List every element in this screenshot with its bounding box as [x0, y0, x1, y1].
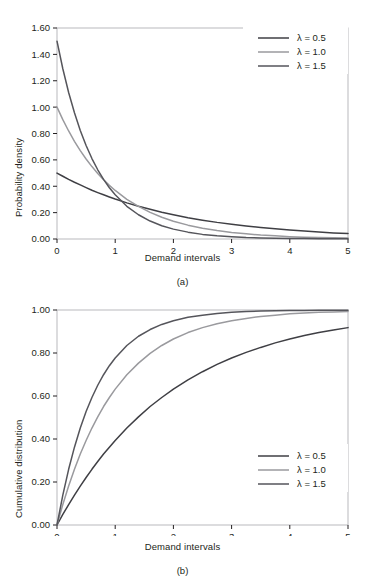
legend-label-2: λ = 1.5: [297, 60, 326, 71]
y-tick-label: 0.00: [32, 233, 51, 244]
y-tick-label: 1.20: [32, 75, 51, 86]
chart-panel-a: 0.000.200.400.600.801.001.201.401.600123…: [0, 14, 365, 299]
y-axis-title-b: Cumulative distribution: [13, 420, 24, 518]
x-tick-label: 5: [345, 531, 350, 536]
x-tick-label: 1: [113, 531, 118, 536]
legend-label-1: λ = 1.0: [297, 46, 326, 57]
y-tick-label: 0.40: [32, 433, 51, 444]
y-tick-label: 0.80: [32, 128, 51, 139]
series-line-1: [57, 107, 348, 238]
series-line-1: [57, 312, 348, 526]
x-axis-title-b: Demand intervals: [0, 541, 365, 552]
panel-caption-a: (a): [0, 276, 365, 287]
x-tick-label: 3: [229, 531, 234, 536]
legend-box: [243, 26, 348, 74]
x-tick-label: 2: [171, 531, 176, 536]
y-axis-title-a: Probability density: [13, 138, 24, 217]
y-tick-label: 1.60: [32, 22, 51, 33]
y-tick-label: 0.20: [32, 476, 51, 487]
series-line-0: [57, 173, 348, 234]
legend-label-0: λ = 0.5: [297, 32, 326, 43]
y-tick-label: 0.40: [32, 181, 51, 192]
cumulative-distribution-plot: 0.000.200.400.600.801.00012345λ = 0.5λ =…: [0, 296, 365, 536]
series-line-0: [57, 328, 348, 525]
y-tick-label: 1.00: [32, 304, 51, 315]
y-tick-label: 0.20: [32, 207, 51, 218]
chart-panel-b: 0.000.200.400.600.801.00012345λ = 0.5λ =…: [0, 296, 365, 585]
x-tick-label: 4: [287, 531, 292, 536]
legend-label-2: λ = 1.5: [297, 478, 326, 489]
y-tick-label: 0.80: [32, 347, 51, 358]
plot-frame: [57, 310, 348, 525]
legend-label-1: λ = 1.0: [297, 464, 326, 475]
panel-caption-b: (b): [0, 565, 365, 576]
legend-label-0: λ = 0.5: [297, 450, 326, 461]
series-line-2: [57, 310, 348, 525]
legend-box: [243, 444, 348, 492]
y-tick-label: 0.60: [32, 390, 51, 401]
y-tick-label: 0.00: [32, 519, 51, 530]
figure-container: 0.000.200.400.600.801.001.201.401.600123…: [0, 0, 365, 585]
y-tick-label: 0.60: [32, 154, 51, 165]
x-axis-title-a: Demand intervals: [0, 252, 365, 263]
probability-density-plot: 0.000.200.400.600.801.001.201.401.600123…: [0, 14, 365, 264]
y-tick-label: 1.00: [32, 102, 51, 113]
y-tick-label: 1.40: [32, 49, 51, 60]
x-tick-label: 0: [54, 531, 59, 536]
